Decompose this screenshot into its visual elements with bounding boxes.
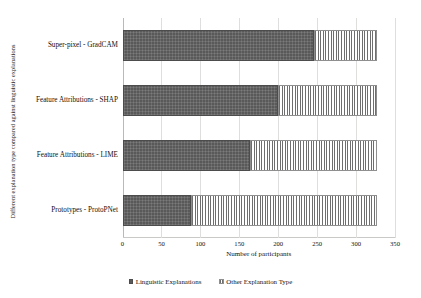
legend-label: Other Explanation Type: [226, 278, 292, 285]
bar-segment-linguistic-explanations[interactable]: [123, 195, 192, 226]
striped-square-icon: [219, 279, 224, 284]
bar-segment-other-explanation-type[interactable]: [191, 195, 377, 226]
category-label: Super-pixel - GradCAM: [18, 41, 118, 49]
bar-segment-linguistic-explanations[interactable]: [123, 85, 279, 116]
legend-label: Linguistic Explanations: [136, 278, 202, 285]
category-label: Feature Attributions - LIME: [18, 151, 118, 159]
legend-item[interactable]: Linguistic Explanations: [129, 278, 202, 285]
x-tick-label: 150: [234, 240, 244, 247]
category-label: Prototypes - ProtoPNet: [18, 206, 118, 214]
bar-row[interactable]: [123, 195, 396, 226]
y-axis-title: Different explanation type compared agai…: [9, 16, 16, 248]
stacked-bar-chart: Different explanation type compared agai…: [0, 0, 421, 298]
x-tick-label: 0: [121, 240, 124, 247]
bar-segment-other-explanation-type[interactable]: [314, 30, 377, 61]
x-tick-label: 350: [390, 240, 400, 247]
bar-row[interactable]: [123, 140, 396, 171]
plot-area: [123, 18, 396, 238]
bar-row[interactable]: [123, 85, 396, 116]
x-tick-label: 50: [158, 240, 165, 247]
x-tick-label: 100: [195, 240, 205, 247]
category-axis-labels: Super-pixel - GradCAMFeature Attribution…: [18, 18, 118, 238]
x-axis-line: [123, 237, 396, 238]
legend-item[interactable]: Other Explanation Type: [219, 278, 292, 285]
x-axis-title: Number of participants: [123, 250, 396, 258]
x-tick-label: 250: [312, 240, 322, 247]
category-label: Feature Attributions - SHAP: [18, 96, 118, 104]
chart-legend: Linguistic ExplanationsOther Explanation…: [0, 278, 421, 285]
x-tick-label: 300: [351, 240, 361, 247]
solid-dark-square-icon: [129, 279, 134, 284]
bar-segment-other-explanation-type[interactable]: [250, 140, 377, 171]
gridline: [395, 18, 396, 238]
x-tick-label: 200: [273, 240, 283, 247]
bar-segment-linguistic-explanations[interactable]: [123, 30, 315, 61]
bar-segment-other-explanation-type[interactable]: [278, 85, 377, 116]
bar-segment-linguistic-explanations[interactable]: [123, 140, 251, 171]
bar-row[interactable]: [123, 30, 396, 61]
